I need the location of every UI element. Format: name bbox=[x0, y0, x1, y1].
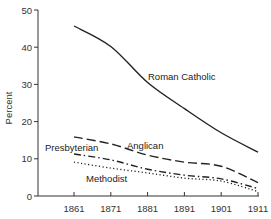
x-tick-label: 1901 bbox=[211, 203, 232, 214]
series-label-methodist: Methodist bbox=[86, 173, 128, 184]
y-tick-label: 20 bbox=[21, 116, 32, 127]
y-axis-label: Percent bbox=[3, 91, 14, 124]
y-tick-label: 0 bbox=[27, 191, 32, 202]
y-axis: 01020304050 bbox=[21, 5, 38, 202]
x-tick-label: 1891 bbox=[174, 203, 195, 214]
y-tick-label: 50 bbox=[21, 5, 32, 16]
x-axis: 186118711881189119011911 bbox=[38, 192, 268, 214]
y-tick-label: 40 bbox=[21, 42, 32, 53]
series-labels: Roman CatholicAnglicanPresbyterianMethod… bbox=[45, 71, 216, 184]
x-tick-label: 1871 bbox=[100, 203, 121, 214]
y-tick-label: 10 bbox=[21, 153, 32, 164]
line-chart: 01020304050 186118711881189119011911 Per… bbox=[0, 0, 271, 219]
x-tick-label: 1861 bbox=[63, 203, 84, 214]
series-label-presbyterian: Presbyterian bbox=[45, 142, 98, 153]
series-group bbox=[74, 26, 258, 192]
x-tick-label: 1911 bbox=[248, 203, 268, 214]
series-roman-catholic-line bbox=[74, 26, 258, 152]
y-tick-label: 30 bbox=[21, 79, 32, 90]
series-label-anglican: Anglican bbox=[127, 140, 163, 151]
x-tick-label: 1881 bbox=[137, 203, 158, 214]
series-label-roman-catholic: Roman Catholic bbox=[148, 71, 216, 82]
